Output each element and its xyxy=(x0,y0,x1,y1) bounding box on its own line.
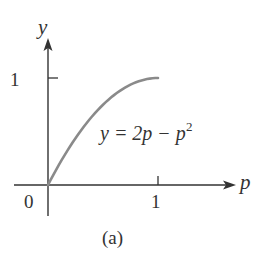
equation-text: y = 2p − p xyxy=(100,122,186,144)
equation-annotation: y = 2p − p2 xyxy=(100,120,192,143)
x-tick-label-0: 0 xyxy=(24,192,34,211)
figure-caption: (a) xyxy=(102,228,123,247)
x-tick-label-1: 1 xyxy=(151,192,161,211)
function-plot: y p 1 0 1 y = 2p − p2 (a) xyxy=(0,0,267,260)
y-tick-label-1: 1 xyxy=(10,70,20,89)
equation-exponent: 2 xyxy=(186,119,193,134)
y-axis-label: y xyxy=(38,17,47,38)
x-axis-label: p xyxy=(240,172,251,193)
